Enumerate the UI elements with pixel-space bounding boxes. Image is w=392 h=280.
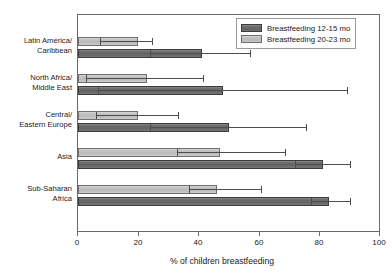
legend-swatch-20-23-icon — [241, 35, 262, 43]
errorbar-line-asia-20-23 — [177, 152, 285, 153]
errorbar-cap-high-sub-saharan-12-15 — [350, 198, 351, 205]
errorbar-line-north-africa-12-15 — [98, 90, 347, 91]
legend-item-20-23: Breastfeeding 20-23 mo — [241, 34, 350, 44]
category-label-latin-america: Latin America/ Caribbean — [0, 36, 72, 55]
breastfeeding-bar-chart: Latin America/ Caribbean North Africa/ M… — [0, 0, 392, 280]
legend-item-12-15: Breastfeeding 12-15 mo — [241, 23, 350, 33]
errorbar-cap-high-central-europe-20-23 — [178, 112, 179, 119]
errorbar-cap-low-north-africa-12-15 — [98, 87, 99, 94]
x-tick-label-20: 20 — [134, 238, 143, 247]
bar-sub-saharan-12-15 — [78, 197, 329, 206]
errorbar-cap-low-asia-20-23 — [177, 149, 178, 156]
category-label-asia: Asia — [0, 152, 72, 162]
errorbar-cap-low-asia-12-15 — [295, 161, 296, 168]
category-label-central-europe: Central/ Eastern Europe — [0, 110, 72, 129]
x-tick-label-0: 0 — [75, 238, 79, 247]
errorbar-cap-low-central-europe-20-23 — [96, 112, 97, 119]
errorbar-cap-high-sub-saharan-20-23 — [261, 186, 262, 193]
x-tick-label-80: 80 — [315, 238, 324, 247]
errorbar-cap-low-central-europe-12-15 — [150, 124, 151, 131]
x-tick-20 — [138, 232, 139, 236]
errorbar-cap-high-central-europe-12-15 — [306, 124, 307, 131]
errorbar-line-sub-saharan-12-15 — [311, 201, 350, 202]
errorbar-line-central-europe-12-15 — [150, 127, 306, 128]
errorbar-cap-high-asia-12-15 — [350, 161, 351, 168]
x-tick-40 — [198, 232, 199, 236]
errorbar-cap-high-north-africa-20-23 — [203, 75, 204, 82]
bar-asia-12-15 — [78, 160, 323, 169]
x-tick-label-100: 100 — [372, 238, 385, 247]
errorbar-line-north-africa-20-23 — [86, 78, 203, 79]
errorbar-cap-low-sub-saharan-12-15 — [311, 198, 312, 205]
errorbar-cap-low-latin-america-20-23 — [100, 38, 101, 45]
errorbar-cap-high-latin-america-12-15 — [250, 50, 251, 57]
errorbar-line-sub-saharan-20-23 — [189, 189, 261, 190]
legend-label-12-15: Breastfeeding 12-15 mo — [267, 24, 350, 33]
errorbar-line-latin-america-12-15 — [150, 53, 250, 54]
x-tick-label-60: 60 — [255, 238, 264, 247]
errorbar-cap-low-latin-america-12-15 — [150, 50, 151, 57]
x-axis-title: % of children breastfeeding — [0, 256, 392, 266]
errorbar-cap-high-north-africa-12-15 — [347, 87, 348, 94]
errorbar-line-latin-america-20-23 — [100, 41, 152, 42]
legend-swatch-12-15-icon — [241, 24, 262, 32]
legend-label-20-23: Breastfeeding 20-23 mo — [267, 35, 350, 44]
errorbar-line-central-europe-20-23 — [96, 115, 178, 116]
category-label-sub-saharan: Sub-Saharan Africa — [0, 184, 72, 203]
errorbar-cap-low-sub-saharan-20-23 — [189, 186, 190, 193]
errorbar-line-asia-12-15 — [295, 164, 350, 165]
x-tick-label-40: 40 — [194, 238, 203, 247]
errorbar-cap-low-north-africa-20-23 — [86, 75, 87, 82]
x-tick-0 — [77, 232, 78, 236]
errorbar-cap-high-latin-america-20-23 — [152, 38, 153, 45]
x-tick-100 — [379, 232, 380, 236]
x-tick-80 — [319, 232, 320, 236]
legend: Breastfeeding 12-15 mo Breastfeeding 20-… — [236, 18, 356, 49]
errorbar-cap-high-asia-20-23 — [285, 149, 286, 156]
category-label-north-africa: North Africa/ Middle East — [0, 73, 72, 92]
x-tick-60 — [259, 232, 260, 236]
